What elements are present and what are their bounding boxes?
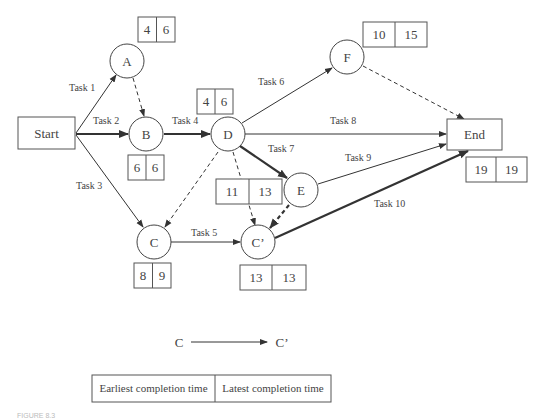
latest-time: 6 (221, 94, 228, 109)
node-c-prime: C’ (241, 225, 275, 259)
time-box-c: 8 9 (134, 263, 171, 288)
earliest-time: 6 (134, 160, 141, 175)
figure-caption: FIGURE 8.3 (17, 412, 55, 419)
edge-label: Task 5 (191, 227, 217, 238)
edge-task-9: Task 9 (318, 144, 446, 184)
latest-time: 19 (505, 162, 518, 177)
edge-label: Task 7 (268, 143, 294, 154)
earliest-time: 8 (140, 268, 147, 283)
earliest-time: 13 (250, 270, 263, 285)
latest-time: 13 (283, 270, 296, 285)
time-box-end: 19 19 (466, 157, 527, 182)
node-e: E (284, 173, 318, 207)
latest-time: 6 (152, 160, 159, 175)
time-box-b: 6 6 (128, 155, 164, 180)
legend-latest-label: Latest completion time (222, 382, 324, 394)
time-box-e: 11 13 (216, 179, 282, 204)
edge-label: Task 8 (330, 115, 356, 126)
node-d: D (211, 117, 245, 151)
earliest-time: 10 (373, 27, 386, 42)
latest-time: 6 (163, 22, 170, 37)
time-box-a: 4 6 (138, 17, 175, 42)
edge-task-7: Task 7 (240, 143, 294, 178)
edge-task-6: Task 6 (242, 68, 332, 123)
edge-label: Task 4 (172, 115, 198, 126)
earliest-time: 4 (144, 22, 151, 37)
time-box-c-prime: 13 13 (240, 265, 306, 290)
legend-earliest-label: Earliest completion time (99, 382, 207, 394)
earliest-time: 11 (226, 184, 239, 199)
node-a: A (110, 44, 144, 78)
latest-time: 15 (405, 27, 418, 42)
edge-task-4: Task 4 (164, 115, 210, 134)
dummy-edge-a-b (133, 78, 144, 116)
node-label: E (297, 183, 305, 198)
node-b: B (129, 117, 163, 151)
edge-task-8: Task 8 (245, 115, 446, 134)
node-label: F (343, 50, 350, 65)
legend-arrow: C C’ (175, 335, 289, 350)
legend-to-label: C’ (276, 335, 289, 350)
node-label: C (150, 235, 159, 250)
latest-time: 9 (159, 268, 166, 283)
edge-task-5: Task 5 (171, 227, 240, 242)
node-label: End (464, 127, 485, 142)
node-label: A (122, 54, 132, 69)
dummy-edge-f-end (363, 66, 464, 119)
latest-time: 13 (259, 184, 272, 199)
edge-label: Task 9 (345, 152, 371, 163)
node-label: Start (34, 126, 59, 141)
edge-label: Task 10 (374, 198, 405, 209)
legend-table: Earliest completion time Latest completi… (92, 375, 331, 402)
time-box-d: 4 6 (197, 89, 233, 114)
edge-label: Task 6 (258, 76, 284, 87)
network-diagram: Task 1 Task 2 Task 3 Task 4 Task 5 Task … (0, 0, 543, 420)
node-c: C (137, 225, 171, 259)
edge-task-2: Task 2 (76, 115, 128, 134)
edge-label: Task 3 (76, 180, 102, 191)
dummy-edge-e-cp (270, 205, 289, 228)
dummy-edge-d-c (165, 152, 218, 227)
node-end: End (447, 119, 502, 150)
legend-from-label: C (175, 335, 184, 350)
edge-label: Task 2 (93, 115, 119, 126)
node-label: B (142, 127, 151, 142)
edge-label: Task 1 (69, 82, 95, 93)
earliest-time: 19 (475, 162, 488, 177)
node-label: C’ (252, 235, 265, 250)
edge-task-3: Task 3 (76, 135, 143, 227)
node-f: F (330, 40, 364, 74)
node-start: Start (18, 117, 75, 149)
node-label: D (223, 127, 232, 142)
time-box-f: 10 15 (363, 22, 427, 47)
earliest-time: 4 (203, 94, 210, 109)
